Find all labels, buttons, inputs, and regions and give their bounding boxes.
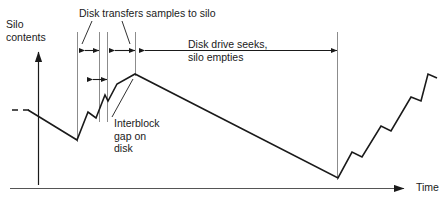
y-axis-label: Silocontents bbox=[6, 18, 46, 43]
leader-transfers-left bbox=[82, 21, 92, 44]
leader-interblock bbox=[112, 79, 133, 117]
y-axis-label-line1: Silo bbox=[6, 18, 24, 30]
annotation-disk-seeks: Disk drive seeks,silo empties bbox=[188, 38, 267, 63]
annotation-interblock-line3: disk bbox=[114, 142, 133, 154]
annotation-disk-seeks-line1: Disk drive seeks, bbox=[188, 38, 267, 50]
y-axis-label-line2: contents bbox=[6, 31, 46, 43]
waveform-silo-contents bbox=[28, 74, 437, 178]
annotation-interblock-line1: Interblock bbox=[114, 117, 160, 129]
diagram-canvas: Silocontents Disk transfers samples to s… bbox=[0, 0, 447, 212]
annotation-interblock-gap: Interblockgap ondisk bbox=[114, 117, 160, 155]
diagram-svg bbox=[0, 0, 447, 212]
annotation-interblock-line2: gap on bbox=[114, 130, 146, 142]
annotation-disk-seeks-line2: silo empties bbox=[188, 51, 243, 63]
leader-transfers-right bbox=[122, 21, 130, 44]
annotation-disk-transfers: Disk transfers samples to silo bbox=[79, 7, 216, 20]
x-axis-label: Time bbox=[416, 181, 439, 194]
